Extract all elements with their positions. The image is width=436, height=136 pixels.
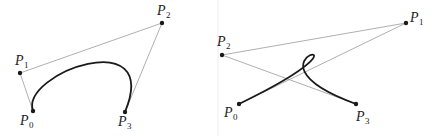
point-label-p3: P3: [117, 114, 132, 131]
point-label-p2: P2: [216, 34, 231, 51]
control-point-p0: [237, 102, 241, 106]
bezier-curve: [32, 62, 131, 112]
point-label-p0: P0: [19, 113, 34, 130]
figure-left: P0P1P2P3: [14, 3, 171, 131]
control-point-p0: [31, 109, 35, 113]
control-polygon: [222, 23, 406, 104]
control-point-p1: [404, 21, 408, 25]
control-point-p3: [354, 102, 358, 106]
control-point-p2: [160, 21, 164, 25]
control-point-p1: [18, 71, 22, 75]
bezier-curve: [239, 55, 356, 104]
point-label-p1: P1: [14, 53, 29, 70]
control-polygon: [20, 23, 162, 112]
point-label-p1: P1: [409, 10, 424, 27]
figure-right: P0P1P2P3: [216, 10, 424, 126]
point-label-p0: P0: [223, 105, 238, 122]
control-point-p2: [220, 53, 224, 57]
point-label-p2: P2: [156, 3, 171, 20]
point-label-p3: P3: [355, 109, 370, 126]
bezier-diagram: P0P1P2P3 P0P1P2P3: [0, 0, 436, 136]
